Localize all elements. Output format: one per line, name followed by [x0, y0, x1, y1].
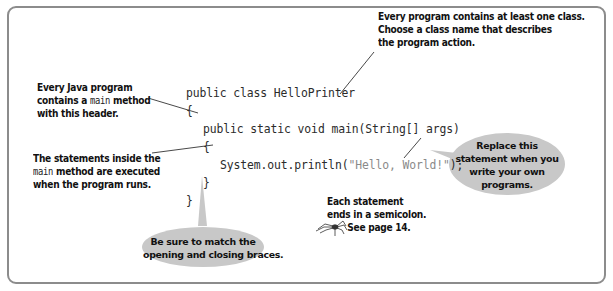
class-note-line3: the program action. — [378, 36, 585, 49]
replace-bubble-line3: write your own — [452, 165, 562, 178]
statements-note-line2-post: method are executed — [53, 165, 160, 177]
main-header-note: Every Java program contains a main metho… — [37, 81, 151, 120]
replace-bubble-text: Replace this statement when you write yo… — [452, 139, 562, 191]
semicolon-note-line1: Each statement — [327, 195, 426, 208]
main-header-note-line2-pre: contains a — [37, 94, 90, 106]
replace-bubble-line1: Replace this — [452, 139, 562, 152]
code-class-open-brace: { — [186, 102, 193, 120]
code-print-statement: System.out.println("Hello, World!"); — [220, 156, 463, 174]
code-string-literal: "Hello, World!" — [348, 158, 449, 172]
main-header-note-line2-post: method — [110, 94, 150, 106]
statements-note-line1: The statements inside the — [33, 152, 160, 165]
statements-note-line2: main method are executed — [33, 165, 160, 178]
code-print-call: System.out.println( — [220, 158, 348, 172]
code-main-open-brace: { — [203, 138, 210, 156]
main-header-note-line1: Every Java program — [37, 81, 151, 94]
replace-bubble-line2: statement when you — [452, 152, 562, 165]
braces-bubble-line2: opening and closing braces. — [143, 248, 263, 261]
main-header-note-line3: with this header. — [37, 107, 151, 120]
main-header-note-line2: contains a main method — [37, 94, 151, 107]
statements-note: The statements inside the main method ar… — [33, 152, 160, 191]
code-main-declaration: public static void main(String[] args) — [203, 120, 460, 138]
class-note-line1: Every program contains at least one clas… — [378, 10, 585, 23]
semicolon-note: Each statement ends in a semicolon. See … — [327, 195, 426, 234]
semicolon-note-line3: See page 14. — [327, 221, 426, 234]
class-note: Every program contains at least one clas… — [378, 10, 585, 49]
code-class-declaration: public class HelloPrinter — [186, 84, 355, 102]
class-note-line2: Choose a class name that describes — [378, 23, 585, 36]
braces-bubble-line1: Be sure to match the — [143, 235, 263, 248]
semicolon-note-line2: ends in a semicolon. — [327, 208, 426, 221]
statements-note-line3: when the program runs. — [33, 178, 160, 191]
code-main-close-brace: } — [203, 174, 210, 192]
leader-semicolon — [404, 138, 421, 158]
replace-bubble-line4: programs. — [452, 178, 562, 191]
main-keyword: main — [90, 95, 110, 106]
main-keyword: main — [33, 166, 53, 177]
code-class-close-brace: } — [186, 192, 193, 210]
braces-bubble-text: Be sure to match the opening and closing… — [143, 235, 263, 261]
